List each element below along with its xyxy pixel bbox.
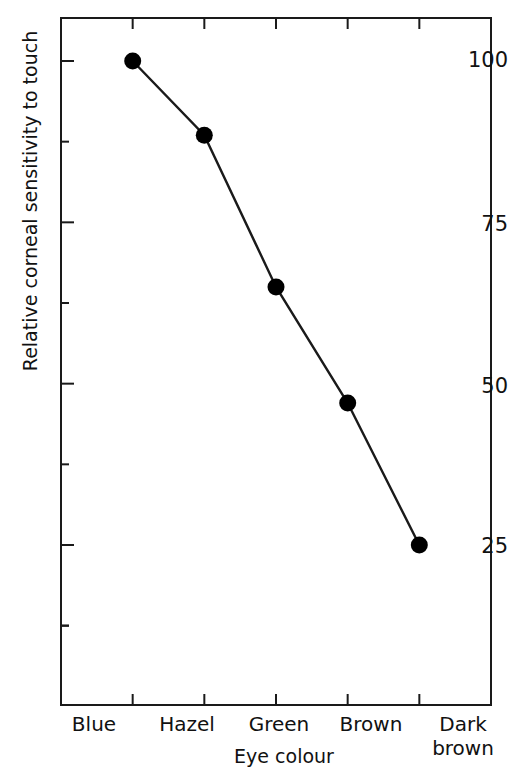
y-tick-label-50: 50 — [456, 376, 508, 397]
x-tick-label-brown-line1: Brown — [340, 712, 403, 736]
x-tick-label-green-line1: Green — [249, 712, 310, 736]
x-tick-label-blue-line1: Blue — [72, 712, 116, 736]
y-axis-title: Relative corneal sensitivity to touch — [19, 21, 41, 381]
chart-figure: 100 75 50 25 Relative corneal sensitivit… — [0, 0, 508, 780]
y-tick-label-25: 25 — [456, 536, 508, 557]
y-tick-label-75: 75 — [456, 214, 508, 235]
x-tick-label-dark-brown-line1: Dark — [439, 712, 486, 736]
y-tick-label-100: 100 — [456, 50, 508, 71]
x-tick-label-hazel-line1: Hazel — [159, 712, 215, 736]
x-axis-title-text: Eye colour — [174, 745, 334, 767]
plot-area-frame — [60, 17, 492, 706]
x-axis-title: Eye colour — [0, 745, 508, 767]
